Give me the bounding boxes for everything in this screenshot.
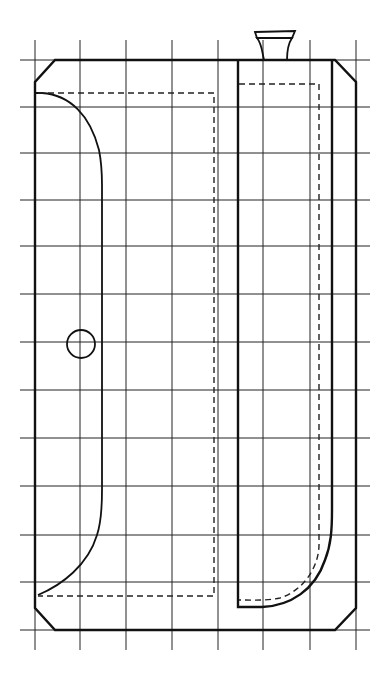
right-compartment-outline <box>238 60 332 607</box>
spout-cap <box>255 31 295 38</box>
spout-neck <box>257 38 292 60</box>
circle-feature <box>67 330 95 358</box>
left-compartment-curve <box>35 93 102 595</box>
outer-body-outline <box>35 60 356 630</box>
technical-drawing <box>0 0 391 673</box>
